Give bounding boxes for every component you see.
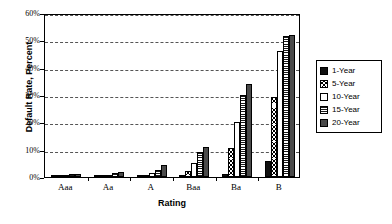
legend-item-label: 15-Year	[332, 106, 360, 114]
legend-item: 5-Year	[320, 77, 378, 90]
bar	[118, 172, 124, 177]
bar-group	[179, 15, 209, 177]
plot-area	[44, 14, 300, 178]
x-axis-title: Rating	[44, 198, 300, 208]
chart-figure: Default Rate, Percent 0%10%20%30%40%50%6…	[0, 0, 392, 224]
legend-item: 10-Year	[320, 90, 378, 103]
y-axis-tick-mark	[40, 178, 44, 179]
y-axis-tick-label: 30%	[0, 92, 40, 100]
bar	[246, 84, 252, 177]
bar-group	[51, 15, 81, 177]
y-axis-tick-label: 60%	[0, 10, 40, 18]
legend-item: 1-Year	[320, 64, 378, 77]
x-axis-tick-mark	[173, 177, 174, 181]
bar-group	[137, 15, 167, 177]
legend: 1-Year5-Year10-Year15-Year20-Year	[316, 60, 382, 133]
bar-group	[265, 15, 295, 177]
x-axis-tick-label: B	[249, 182, 309, 192]
legend-swatch-icon	[320, 106, 328, 114]
x-axis-tick-mark	[88, 177, 89, 181]
y-axis-tick-label: 40%	[0, 65, 40, 73]
x-axis-tick-mark	[216, 177, 217, 181]
gridline	[45, 42, 299, 43]
y-axis-tick-label: 20%	[0, 119, 40, 127]
legend-item: 20-Year	[320, 116, 378, 129]
legend-item-label: 1-Year	[332, 67, 355, 75]
bar	[161, 165, 167, 177]
y-axis-tick-label: 0%	[0, 174, 40, 182]
gridline	[45, 15, 299, 16]
legend-item-label: 5-Year	[332, 80, 355, 88]
gridline	[45, 97, 299, 98]
x-axis-tick-mark	[258, 177, 259, 181]
x-axis-tick-mark	[130, 177, 131, 181]
gridline	[45, 124, 299, 125]
y-axis-title: Default Rate, Percent	[24, 12, 34, 162]
y-axis-tick-label: 10%	[0, 147, 40, 155]
legend-item: 15-Year	[320, 103, 378, 116]
legend-swatch-icon	[320, 67, 328, 75]
gridline	[45, 152, 299, 153]
y-axis-tick-label: 50%	[0, 37, 40, 45]
legend-swatch-icon	[320, 80, 328, 88]
bar-group	[222, 15, 252, 177]
gridline	[45, 70, 299, 71]
bar-group	[94, 15, 124, 177]
legend-item-label: 10-Year	[332, 93, 360, 101]
legend-swatch-icon	[320, 119, 328, 127]
bar	[289, 35, 295, 177]
legend-item-label: 20-Year	[332, 119, 360, 127]
bar	[203, 147, 209, 177]
legend-swatch-icon	[320, 93, 328, 101]
bar	[75, 174, 81, 177]
